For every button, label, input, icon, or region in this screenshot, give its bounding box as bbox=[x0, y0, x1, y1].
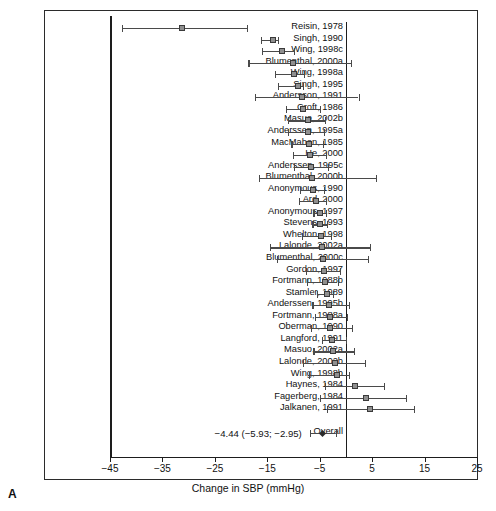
ci-end-cap bbox=[299, 198, 300, 205]
x-tick bbox=[215, 457, 216, 462]
ci-end-cap bbox=[352, 325, 353, 332]
ci-end-cap bbox=[347, 314, 348, 321]
ci-end-cap bbox=[338, 279, 339, 286]
point-estimate-marker bbox=[313, 198, 319, 204]
ci-end-cap bbox=[278, 83, 279, 90]
ci-end-cap bbox=[328, 164, 329, 171]
ci-end-cap bbox=[313, 210, 314, 217]
ci-end-cap bbox=[326, 198, 327, 205]
point-estimate-marker bbox=[179, 25, 185, 31]
confidence-interval-line bbox=[275, 74, 304, 75]
point-estimate-marker bbox=[308, 164, 314, 170]
ci-end-cap bbox=[340, 268, 341, 275]
ci-end-cap bbox=[384, 383, 385, 390]
ci-end-cap bbox=[376, 175, 377, 182]
ci-end-cap bbox=[311, 325, 312, 332]
x-axis-title: Change in SBP (mmHg) bbox=[0, 482, 496, 494]
ci-end-cap bbox=[312, 302, 313, 309]
x-tick-label: −35 bbox=[154, 463, 171, 474]
point-estimate-marker bbox=[305, 129, 311, 135]
ci-end-cap bbox=[359, 94, 360, 101]
point-estimate-marker bbox=[363, 395, 369, 401]
point-estimate-marker bbox=[295, 83, 301, 89]
x-tick bbox=[372, 457, 373, 462]
ci-end-cap bbox=[248, 60, 249, 67]
forest-row bbox=[0, 403, 496, 417]
ci-end-cap bbox=[354, 348, 355, 355]
x-tick-label: 25 bbox=[471, 463, 482, 474]
ci-end-cap bbox=[255, 94, 256, 101]
confidence-interval-line bbox=[262, 51, 294, 52]
confidence-interval-line bbox=[302, 236, 331, 237]
point-estimate-marker bbox=[367, 406, 373, 412]
ci-end-cap bbox=[278, 37, 279, 44]
overall-row: −4.44 (−5.93; −2.95) bbox=[0, 427, 496, 441]
ci-end-cap bbox=[317, 291, 318, 298]
ci-end-cap bbox=[326, 152, 327, 159]
x-axis-line bbox=[110, 457, 477, 458]
x-tick bbox=[477, 457, 478, 462]
x-tick bbox=[110, 457, 111, 462]
ci-end-cap bbox=[122, 25, 123, 32]
x-tick bbox=[320, 457, 321, 462]
point-estimate-marker bbox=[352, 383, 358, 389]
ci-end-cap bbox=[349, 302, 350, 309]
confidence-interval-line bbox=[259, 178, 376, 179]
ci-end-cap bbox=[414, 406, 415, 413]
point-estimate-marker bbox=[291, 71, 297, 77]
point-estimate-marker bbox=[299, 94, 305, 100]
ci-end-cap bbox=[294, 164, 295, 171]
point-estimate-marker bbox=[322, 279, 328, 285]
ci-end-cap bbox=[294, 48, 295, 55]
point-estimate-marker bbox=[309, 175, 315, 181]
ci-end-cap bbox=[277, 256, 278, 263]
confidence-interval-line bbox=[309, 375, 349, 376]
ci-end-cap bbox=[262, 48, 263, 55]
ci-end-cap bbox=[315, 314, 316, 321]
ci-end-cap bbox=[313, 348, 314, 355]
point-estimate-marker bbox=[324, 291, 330, 297]
ci-end-cap bbox=[259, 175, 260, 182]
ci-end-cap bbox=[293, 152, 294, 159]
ci-end-cap bbox=[270, 244, 271, 251]
ci-end-cap bbox=[288, 117, 289, 124]
point-estimate-marker bbox=[332, 360, 338, 366]
ci-end-cap bbox=[322, 337, 323, 344]
ci-end-cap bbox=[309, 372, 310, 379]
ci-end-cap bbox=[325, 117, 326, 124]
ci-end-cap bbox=[320, 106, 321, 113]
overall-estimate-text: −4.44 (−5.93; −2.95) bbox=[215, 427, 302, 441]
point-estimate-marker bbox=[319, 244, 325, 250]
point-estimate-marker bbox=[300, 106, 306, 112]
point-estimate-marker bbox=[306, 141, 312, 147]
ci-end-cap bbox=[306, 268, 307, 275]
ci-end-cap bbox=[349, 372, 350, 379]
point-estimate-marker bbox=[327, 325, 333, 331]
ci-end-cap bbox=[312, 221, 313, 228]
point-estimate-marker bbox=[327, 314, 333, 320]
ci-end-cap bbox=[370, 244, 371, 251]
ci-end-cap bbox=[406, 395, 407, 402]
ci-end-cap bbox=[368, 256, 369, 263]
x-tick-label: −45 bbox=[102, 463, 119, 474]
ci-end-cap bbox=[327, 221, 328, 228]
ci-end-cap bbox=[323, 141, 324, 148]
ci-end-cap bbox=[327, 406, 328, 413]
point-estimate-marker bbox=[326, 302, 332, 308]
x-tick-label: −15 bbox=[259, 463, 276, 474]
point-estimate-marker bbox=[310, 187, 316, 193]
ci-end-cap bbox=[324, 187, 325, 194]
ci-end-cap bbox=[286, 106, 287, 113]
overall-ci-end-cap bbox=[310, 430, 311, 437]
point-estimate-marker bbox=[290, 60, 296, 66]
point-estimate-marker bbox=[321, 268, 327, 274]
x-tick-label: 15 bbox=[419, 463, 430, 474]
ci-end-cap bbox=[326, 210, 327, 217]
x-tick bbox=[162, 457, 163, 462]
overall-ci-end-cap bbox=[336, 430, 337, 437]
point-estimate-marker bbox=[334, 372, 340, 378]
point-estimate-marker bbox=[317, 210, 323, 216]
x-tick bbox=[267, 457, 268, 462]
ci-end-cap bbox=[331, 233, 332, 240]
ci-end-cap bbox=[324, 129, 325, 136]
